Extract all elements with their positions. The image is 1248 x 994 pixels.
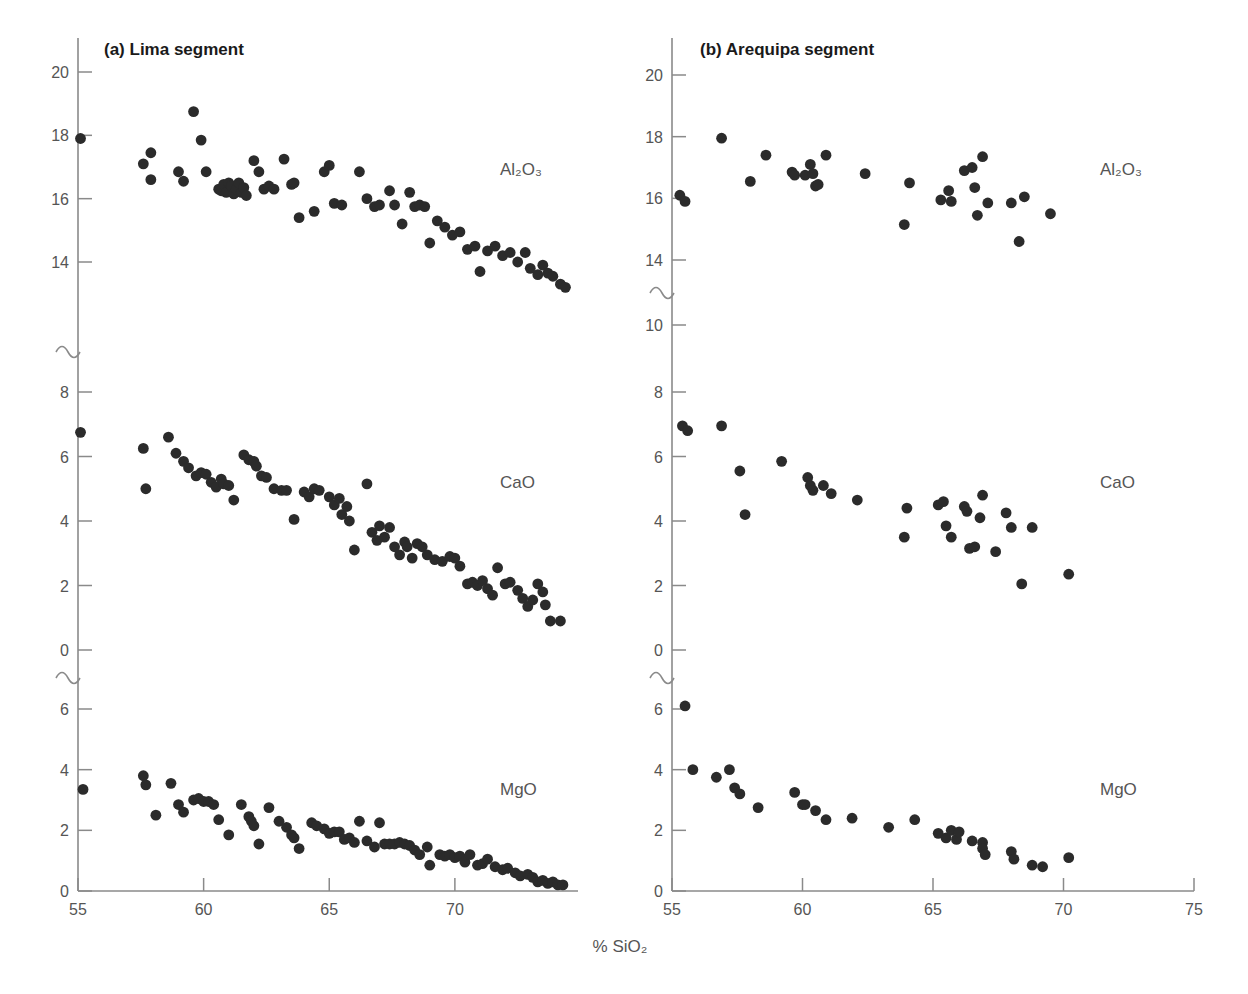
data-point [946, 196, 957, 207]
data-point [826, 488, 837, 499]
data-point [935, 194, 946, 205]
data-point [860, 168, 871, 179]
data-point [281, 485, 292, 496]
data-point [145, 174, 156, 185]
data-point [254, 166, 265, 177]
data-point [946, 532, 957, 543]
data-point [975, 512, 986, 523]
data-point [977, 151, 988, 162]
data-point [279, 154, 290, 165]
data-point [140, 779, 151, 790]
data-point [800, 799, 811, 810]
data-point [294, 843, 305, 854]
data-point [716, 133, 727, 144]
data-point [1006, 522, 1017, 533]
data-point [314, 485, 325, 496]
data-point [422, 842, 433, 853]
data-point [248, 155, 259, 166]
y-tick-label: 8 [60, 384, 69, 401]
data-point [384, 185, 395, 196]
data-point [545, 616, 556, 627]
data-point [883, 822, 894, 833]
data-point [711, 772, 722, 783]
data-point [560, 282, 571, 293]
data-point [402, 541, 413, 552]
data-point [344, 516, 355, 527]
data-point [789, 170, 800, 181]
x-tick-label: 55 [69, 901, 87, 918]
data-point [1016, 578, 1027, 589]
y-tick-label: 4 [654, 762, 663, 779]
data-point [980, 849, 991, 860]
data-point [171, 448, 182, 459]
data-point [309, 206, 320, 217]
data-point [753, 802, 764, 813]
data-point [138, 158, 149, 169]
data-point [75, 133, 86, 144]
data-point [1001, 508, 1012, 519]
data-point [188, 106, 199, 117]
data-point [740, 509, 751, 520]
x-tick-label: 70 [446, 901, 464, 918]
data-point [680, 701, 691, 712]
data-point [761, 150, 772, 161]
data-point [349, 837, 360, 848]
data-point [847, 813, 858, 824]
data-point [470, 241, 481, 252]
y-tick-label: 8 [654, 384, 663, 401]
data-point [289, 833, 300, 844]
data-point [261, 472, 272, 483]
series-label-al2o3: Al₂O₃ [1100, 160, 1142, 179]
data-point [439, 222, 450, 233]
x-tick-label: 60 [794, 901, 812, 918]
x-axis-title: % SiO₂ [593, 937, 648, 956]
data-point [419, 201, 430, 212]
data-point [808, 168, 819, 179]
y-tick-label: 20 [645, 67, 663, 84]
y-tick-label: 2 [654, 822, 663, 839]
y-tick-label: 18 [645, 129, 663, 146]
data-point [223, 480, 234, 491]
data-point [349, 545, 360, 556]
data-point [362, 193, 373, 204]
data-point [490, 241, 501, 252]
harker-variation-diagram: 20181614Al₂O₃86420CaO6420MgO55606570(a) … [0, 0, 1248, 994]
data-point [1006, 198, 1017, 209]
data-point [213, 814, 224, 825]
y-tick-label: 0 [60, 883, 69, 900]
series-label-mgo: MgO [1100, 780, 1137, 799]
data-point [680, 196, 691, 207]
data-point [687, 764, 698, 775]
data-point [236, 799, 247, 810]
data-point [990, 546, 1001, 557]
data-point [813, 179, 824, 190]
series-label-cao: CaO [500, 473, 535, 492]
data-point [967, 162, 978, 173]
y-tick-label: 10 [645, 317, 663, 334]
data-point [716, 420, 727, 431]
data-point [324, 160, 335, 171]
data-point [810, 805, 821, 816]
data-point [196, 135, 207, 146]
data-point [223, 829, 234, 840]
data-point [374, 817, 385, 828]
data-point [178, 807, 189, 818]
data-point [724, 764, 735, 775]
data-point [532, 269, 543, 280]
x-tick-label: 70 [1055, 901, 1073, 918]
panel-title: (b) Arequipa segment [700, 40, 874, 59]
y-tick-label: 16 [51, 191, 69, 208]
data-point [909, 814, 920, 825]
data-point [201, 166, 212, 177]
data-point [178, 176, 189, 187]
data-point [1014, 236, 1025, 247]
data-point [555, 616, 566, 627]
data-point [734, 789, 745, 800]
data-point [982, 198, 993, 209]
data-point [805, 159, 816, 170]
data-point [537, 587, 548, 598]
data-point [241, 190, 252, 201]
data-point [745, 176, 756, 187]
x-tick-label: 65 [320, 901, 338, 918]
data-point [341, 501, 352, 512]
